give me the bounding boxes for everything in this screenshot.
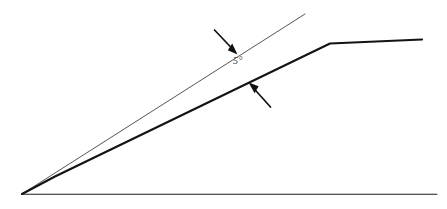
angle-measure-label: 5°	[233, 55, 243, 66]
lower-annotation-arrow	[249, 83, 271, 108]
upper-reference-line	[22, 14, 305, 194]
lower-slope-line	[22, 40, 422, 195]
diagram-canvas: 5°	[0, 0, 447, 209]
upper-annotation-arrow	[215, 30, 238, 55]
angle-diagram-drawing	[0, 0, 447, 209]
